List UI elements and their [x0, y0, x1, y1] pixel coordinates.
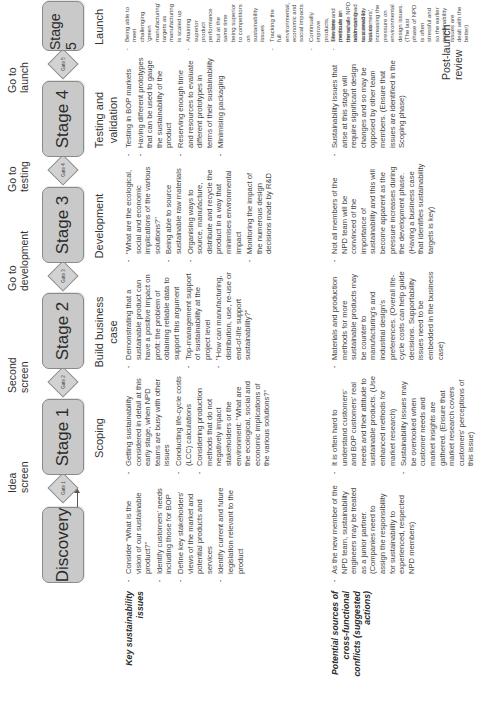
gate-5-icon: Gate 5	[47, 48, 78, 79]
cell-issues-business-case: Demonstrating that a sustainable product…	[124, 269, 255, 369]
stage-discovery: Discovery	[42, 507, 84, 583]
arrow-icon	[77, 489, 78, 507]
gate-2-icon: Gate 2	[47, 366, 78, 397]
post-launch-review-label: Post-launch review	[440, 20, 480, 80]
gate-3-icon: Gate 3	[47, 260, 78, 291]
stage-5: Stage 5	[42, 1, 84, 51]
phase-label-build-business-case: Build business case	[92, 295, 120, 369]
cell-issues-development: "What are the ecological, social and eco…	[124, 163, 276, 263]
gate-label-go-to-launch: Go to launch	[6, 49, 30, 93]
phase-label-development: Development	[92, 189, 106, 263]
stage-2: Stage 2	[42, 293, 84, 369]
gate-4-icon: Gate 4	[47, 154, 78, 185]
stage-name: Stage 3	[53, 196, 73, 255]
cell-conflicts-discovery: As the new member of the NPD team, susta…	[330, 483, 418, 583]
stage-name: Stage 1	[53, 408, 73, 467]
gate-label-second-screen: Second screen	[6, 349, 30, 393]
stage-name: Stage 4	[53, 90, 73, 149]
gate-label-go-to-testing: Go to testing	[6, 148, 30, 192]
stage-4: Stage 4	[42, 81, 84, 157]
gate-label-go-to-development: Go to development	[6, 221, 30, 291]
gate-label-idea-screen: Idea screen	[6, 449, 30, 493]
stage-name: Stage 2	[53, 302, 73, 361]
cell-conflicts-scoping: It is often hard to understand customers…	[330, 375, 478, 475]
phase-label-testing-validation: Testing and validation	[92, 83, 120, 157]
row-label-key-issues: Key sustainability issues	[124, 591, 146, 681]
stage-name: Stage 5	[47, 2, 79, 50]
row-label-conflicts: Potential sources of cross-functional co…	[330, 591, 373, 681]
cell-issues-discovery: Consider "What is the vision of our sust…	[124, 483, 247, 583]
cell-issues-scoping: Getting sustainability considered in det…	[124, 375, 274, 475]
stage-1: Stage 1	[42, 399, 84, 475]
cell-conflicts-business-case: Materials and production methods for mor…	[330, 269, 447, 369]
cell-conflicts-development: Not all members of the NPD team will be …	[330, 163, 438, 263]
stage-3: Stage 3	[42, 187, 84, 263]
phase-label-launch: Launch	[92, 3, 106, 51]
gate-1-icon: Gate 1	[47, 472, 78, 503]
stage-gate-figure: Idea screen Second screen Go to developm…	[0, 0, 480, 711]
phase-label-scoping: Scoping	[92, 401, 106, 475]
cell-conflicts-testing: Sustainability issues that arise at this…	[330, 57, 409, 157]
cell-issues-testing: Testing in BOP marketsHaving different p…	[124, 57, 228, 157]
stage-name: Discovery	[53, 508, 73, 583]
